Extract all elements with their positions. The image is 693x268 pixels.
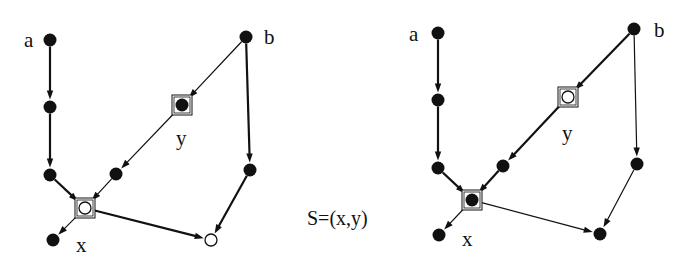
- node-a3: [44, 169, 57, 182]
- edge-b2-to-o: [604, 170, 634, 228]
- edge-a3-to-x: [443, 172, 465, 193]
- edge-a3-to-x: [55, 179, 78, 201]
- node-label-b: b: [654, 18, 665, 42]
- node-b: b: [628, 18, 665, 42]
- edge-m-to-x: [479, 171, 499, 193]
- hollow-node-icon: [562, 91, 574, 103]
- node-b2: [244, 164, 257, 177]
- node-label-a: a: [24, 28, 34, 52]
- filled-node-icon: [44, 34, 57, 47]
- arrowhead-icon: [47, 91, 53, 100]
- filled-node-icon: [466, 194, 479, 207]
- filled-node-icon: [594, 228, 607, 241]
- arrowhead-icon: [604, 218, 611, 227]
- node-a2: [44, 101, 57, 114]
- filled-node-icon: [47, 234, 60, 247]
- node-label-x: x: [462, 227, 473, 251]
- edge-a2-to-a3: [435, 107, 441, 161]
- edge-x-to-o: [482, 203, 593, 233]
- node-y: y: [172, 95, 192, 150]
- edge-x-to-o: [95, 210, 204, 239]
- filled-node-icon: [110, 168, 123, 181]
- edge-y-to-m: [508, 104, 561, 160]
- node-a: a: [409, 22, 445, 46]
- caption-text: S=(x,y): [307, 207, 368, 230]
- arrowhead-icon: [435, 152, 441, 161]
- node-a2: [432, 94, 445, 107]
- node-label-x: x: [76, 233, 87, 257]
- arrowhead-icon: [633, 147, 639, 156]
- node-a3: [432, 162, 445, 175]
- node-xc: [47, 234, 60, 247]
- filled-node-icon: [432, 162, 445, 175]
- arrowhead-icon: [47, 159, 53, 168]
- filled-node-icon: [497, 160, 510, 173]
- node-label-b: b: [264, 25, 275, 49]
- hollow-node-icon: [79, 202, 91, 214]
- node-m: [110, 168, 123, 181]
- filled-node-icon: [433, 229, 446, 242]
- filled-node-icon: [176, 99, 189, 112]
- filled-node-icon: [628, 23, 641, 36]
- node-b: b: [240, 25, 275, 49]
- edge-y-to-m: [121, 112, 175, 168]
- filled-node-icon: [432, 94, 445, 107]
- arrowhead-icon: [215, 224, 222, 233]
- node-y: y: [558, 87, 578, 145]
- right-graph: axyb: [409, 18, 665, 251]
- edge-b2-to-o: [215, 176, 247, 234]
- hollow-node-icon: [205, 234, 217, 246]
- filled-node-icon: [240, 31, 253, 44]
- node-x: x: [75, 198, 95, 257]
- node-o: [205, 234, 217, 246]
- edge-a2-to-a3: [47, 114, 53, 168]
- node-o: [594, 228, 607, 241]
- edge-b-to-b2: [633, 35, 639, 156]
- left-graph: axyb: [24, 25, 275, 257]
- filled-node-icon: [244, 164, 257, 177]
- arrowhead-icon: [246, 153, 252, 162]
- node-b2: [631, 158, 644, 171]
- filled-node-icon: [432, 27, 445, 40]
- edge-a-to-a2: [47, 47, 53, 100]
- arrowhead-icon: [435, 84, 441, 93]
- edge-b-to-y: [189, 42, 242, 98]
- filled-node-icon: [44, 169, 57, 182]
- node-x: x: [462, 190, 482, 251]
- node-m: [497, 160, 510, 173]
- node-label-a: a: [409, 22, 419, 46]
- node-label-y: y: [562, 121, 573, 145]
- node-xc: [433, 229, 446, 242]
- node-label-y: y: [176, 126, 187, 150]
- edge-a-to-a2: [435, 40, 441, 93]
- filled-node-icon: [631, 158, 644, 171]
- arrowhead-icon: [583, 227, 593, 233]
- arrowhead-icon: [194, 233, 204, 239]
- edge-b-to-b2: [246, 43, 253, 162]
- filled-node-icon: [44, 101, 57, 114]
- node-a: a: [24, 28, 57, 52]
- edge-b-to-y: [575, 34, 630, 90]
- graph-diagram: axyb axyb S=(x,y): [0, 0, 693, 268]
- edge-m-to-x: [92, 179, 112, 201]
